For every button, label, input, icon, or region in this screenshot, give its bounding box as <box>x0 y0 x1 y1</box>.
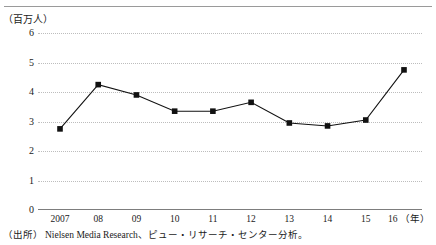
x-axis-tick-11: 11 <box>208 213 217 225</box>
x-axis-tick-15: 15 <box>361 213 371 225</box>
data-point-08 <box>95 82 101 88</box>
data-point-11 <box>210 108 216 114</box>
data-point-09 <box>134 92 140 98</box>
y-axis-unit-label: （百万人） <box>3 14 53 26</box>
x-axis-tick-08: 08 <box>93 213 103 225</box>
data-point-2007 <box>57 126 63 132</box>
x-axis-tick-14: 14 <box>323 213 333 225</box>
y-axis-tick-2: 2 <box>8 146 34 156</box>
figure-container: （百万人） 0123456 2007080910111213141516 （年）… <box>0 0 436 245</box>
y-axis-tick-5: 5 <box>8 58 34 68</box>
y-axis-tick-6: 6 <box>8 28 34 38</box>
source-note: （出所）Nielsen Media Research、ピュー・リサーチ・センター… <box>3 229 308 241</box>
y-axis-tick-0: 0 <box>8 205 34 215</box>
data-point-15 <box>363 117 369 123</box>
x-axis-tick-labels: 2007080910111213141516 （年） <box>38 213 428 227</box>
figure-top-rule <box>4 6 432 7</box>
data-point-12 <box>248 100 254 106</box>
source-note-text: Nielsen Media Research、ピュー・リサーチ・センター分析。 <box>45 230 308 240</box>
x-axis-tick-10: 10 <box>170 213 180 225</box>
data-point-14 <box>325 123 331 129</box>
plot-area <box>38 33 422 210</box>
x-axis-tick-16: 16 （年） <box>388 213 430 225</box>
x-axis-tick-09: 09 <box>132 213 142 225</box>
source-note-label: （出所） <box>3 230 43 240</box>
data-point-13 <box>287 120 293 126</box>
y-axis-tick-1: 1 <box>8 176 34 186</box>
y-axis-tick-labels: 0123456 <box>6 33 34 210</box>
series-line <box>38 33 422 210</box>
y-axis-tick-4: 4 <box>8 87 34 97</box>
data-point-16 <box>401 67 407 73</box>
x-axis-tick-12: 12 <box>246 213 256 225</box>
x-axis-tick-13: 13 <box>285 213 295 225</box>
y-axis-tick-3: 3 <box>8 117 34 127</box>
data-point-10 <box>172 108 178 114</box>
x-axis-tick-2007: 2007 <box>51 213 70 225</box>
